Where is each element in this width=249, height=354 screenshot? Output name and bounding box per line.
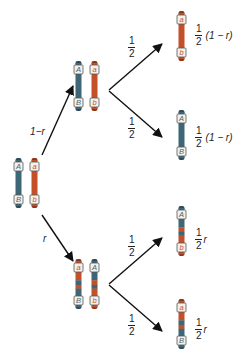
probability-term: r <box>204 234 207 245</box>
allele-box-bottom: b <box>177 48 186 57</box>
allele-box-top: a <box>30 162 39 171</box>
probability-term: (1 − r) <box>206 30 233 41</box>
fraction-numerator: 1 <box>195 126 203 137</box>
allele-label: a <box>76 263 80 272</box>
nonrecombinant-chromosome-2: ab <box>90 61 99 111</box>
allele-label: a <box>32 162 36 171</box>
parent-chromosome-2: ab <box>30 158 39 208</box>
edge-fraction-gamete-2: 1 2 <box>128 117 136 140</box>
allele-label: B <box>179 147 184 156</box>
gamete-probability-3: 1 2 r <box>195 228 207 251</box>
allele-box-bottom: B <box>74 98 83 107</box>
recombinant-chromosome-1: aB <box>74 259 83 309</box>
allele-label: b <box>92 98 96 107</box>
allele-box-top: a <box>90 65 99 74</box>
allele-box-top: A <box>177 114 186 123</box>
allele-label: A <box>15 162 21 171</box>
allele-label: A <box>91 263 97 272</box>
recombination-diagram: ABabABabaBAbabABAbaB <box>0 0 249 354</box>
allele-label: b <box>92 296 96 305</box>
parent-chromosome-1: AB <box>14 158 23 208</box>
allele-label: B <box>76 98 81 107</box>
allele-label: a <box>92 65 96 74</box>
allele-label: b <box>32 195 36 204</box>
fraction-numerator: 1 <box>195 228 203 239</box>
edge-label-nonrecombinant: 1−r <box>30 127 45 137</box>
allele-box-bottom: b <box>177 243 186 252</box>
fraction-numerator: 1 <box>128 36 136 47</box>
allele-label: A <box>178 210 184 219</box>
allele-label: B <box>16 195 21 204</box>
allele-label: B <box>179 336 184 345</box>
fraction-denominator: 2 <box>129 326 135 337</box>
allele-label: b <box>179 243 183 252</box>
arrow-parent-to-nonrecombinant <box>42 86 73 155</box>
nonrecombinant-chromosome-1: AB <box>74 61 83 111</box>
fraction-denominator: 2 <box>129 48 135 59</box>
edge-fraction-gamete-3: 1 2 <box>128 235 136 258</box>
allele-box-bottom: b <box>90 98 99 107</box>
gamete-chromosome-1: ab <box>177 11 186 61</box>
fraction-denominator: 2 <box>196 330 202 341</box>
allele-box-top: A <box>14 162 23 171</box>
gamete-probability-1: 1 2 (1 − r) <box>195 24 233 47</box>
allele-label: A <box>75 65 81 74</box>
allele-label: b <box>179 48 183 57</box>
allele-box-bottom: b <box>30 195 39 204</box>
fraction-denominator: 2 <box>129 129 135 140</box>
fraction-numerator: 1 <box>128 117 136 128</box>
probability-term: r <box>204 324 207 335</box>
fraction-numerator: 1 <box>195 24 203 35</box>
allele-box-top: a <box>177 303 186 312</box>
probability-fraction: 1 2 <box>195 24 203 47</box>
fraction-numerator: 1 <box>128 235 136 246</box>
allele-box-bottom: B <box>177 336 186 345</box>
gamete-probability-2: 1 2 (1 − r) <box>195 126 233 149</box>
fraction-denominator: 2 <box>196 36 202 47</box>
allele-box-top: a <box>74 263 83 272</box>
allele-label: a <box>179 303 183 312</box>
allele-box-bottom: B <box>177 147 186 156</box>
allele-label: B <box>76 296 81 305</box>
edge-label-recombinant: r <box>43 234 46 244</box>
fraction-denominator: 2 <box>129 247 135 258</box>
allele-box-top: A <box>74 65 83 74</box>
probability-term: (1 − r) <box>206 132 233 143</box>
allele-box-top: a <box>177 15 186 24</box>
edge-fraction-gamete-1: 1 2 <box>128 36 136 59</box>
allele-box-bottom: B <box>14 195 23 204</box>
fraction-denominator: 2 <box>196 138 202 149</box>
gamete-chromosome-4: aB <box>177 299 186 349</box>
chromosome-layer: ABabABabaBAbabABAbaB <box>14 11 186 349</box>
allele-box-bottom: b <box>90 296 99 305</box>
gamete-probability-4: 1 2 r <box>195 318 207 341</box>
allele-label: a <box>179 15 183 24</box>
probability-fraction: 1 2 <box>195 126 203 149</box>
fraction-numerator: 1 <box>195 318 203 329</box>
probability-fraction: 1 2 <box>195 318 203 341</box>
probability-fraction: 1 2 <box>195 228 203 251</box>
recombinant-chromosome-2: Ab <box>90 259 99 309</box>
arrow-parent-to-recombinant <box>42 215 73 261</box>
allele-box-top: A <box>90 263 99 272</box>
fraction-numerator: 1 <box>128 314 136 325</box>
allele-box-top: A <box>177 210 186 219</box>
gamete-chromosome-3: Ab <box>177 206 186 256</box>
gamete-chromosome-2: AB <box>177 110 186 160</box>
allele-label: A <box>178 114 184 123</box>
allele-box-bottom: B <box>74 296 83 305</box>
edge-fraction-gamete-4: 1 2 <box>128 314 136 337</box>
fraction-denominator: 2 <box>196 240 202 251</box>
